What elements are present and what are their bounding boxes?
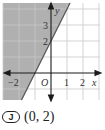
answer-choice[interactable]: J (0, 2) — [2, 108, 54, 126]
y-axis-down-arrow-icon — [49, 95, 54, 101]
x-tick-label-1: 1 — [64, 77, 69, 88]
choice-value: (0, 2) — [24, 109, 54, 125]
choice-letter-badge: J — [2, 111, 20, 123]
x-tick-label-neg2: −2 — [8, 77, 19, 88]
y-tick-label-2: 2 — [43, 36, 48, 47]
x-axis-label: x — [91, 77, 97, 88]
y-axis-label: y — [54, 5, 60, 16]
origin-label: O — [41, 77, 48, 88]
x-axis-right-arrow-icon — [95, 71, 101, 76]
x-tick-label-2: 2 — [80, 77, 85, 88]
y-tick-label-3: 3 — [43, 20, 48, 31]
coordinate-graph: y x O −2 1 2 3 2 — [0, 0, 105, 104]
